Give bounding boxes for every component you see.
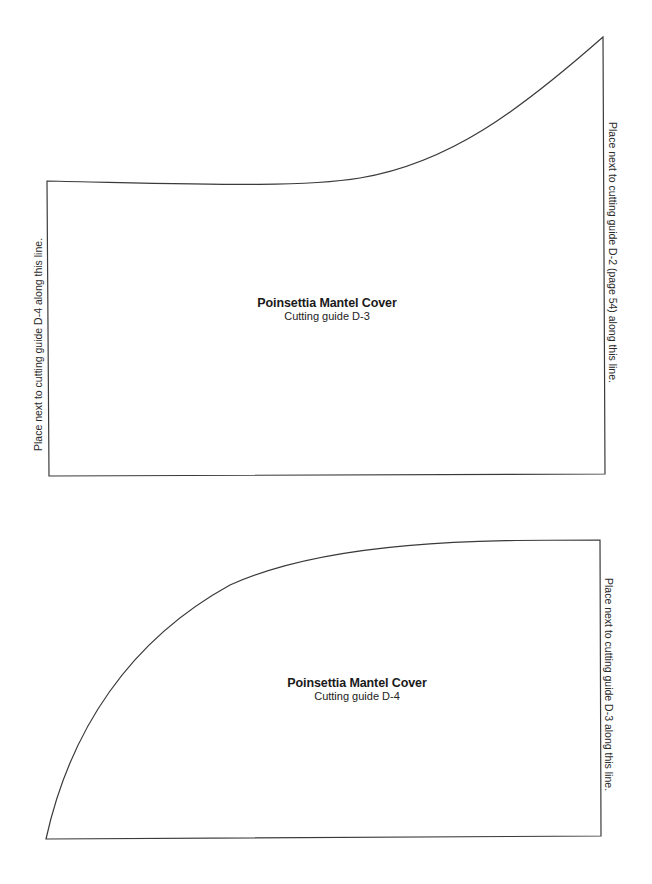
piece-title: Poinsettia Mantel Cover	[257, 296, 396, 310]
left-edge-label: Place next to cutting guide D-4 along th…	[32, 238, 44, 451]
pattern-canvas	[0, 0, 652, 884]
right-edge-label: Place next to cutting guide D-3 along th…	[603, 578, 615, 791]
piece-subtitle: Cutting guide D-3	[284, 310, 370, 322]
right-edge-label: Place next to cutting guide D-2 (page 54…	[607, 122, 619, 383]
cutting-guide-d3-outline	[47, 37, 605, 476]
piece-subtitle: Cutting guide D-4	[314, 690, 400, 702]
piece-title: Poinsettia Mantel Cover	[287, 676, 426, 690]
